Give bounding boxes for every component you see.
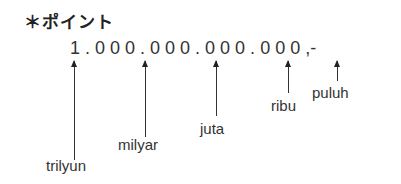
arrow-puluh xyxy=(337,61,338,81)
arrow-ribu xyxy=(288,61,289,93)
label-puluh: puluh xyxy=(312,84,349,101)
number-display: 1 . 0 0 0 . 0 0 0 . 0 0 0 . 0 0 0 ,- xyxy=(70,38,316,59)
label-juta: juta xyxy=(200,120,224,137)
arrow-juta xyxy=(216,61,217,116)
title-heading: ＊ポイント xyxy=(24,8,114,33)
label-milyar: milyar xyxy=(118,136,158,153)
arrow-trilyun xyxy=(74,61,75,160)
label-ribu: ribu xyxy=(271,97,296,114)
arrow-milyar xyxy=(145,61,146,137)
label-trilyun: trilyun xyxy=(46,157,86,174)
